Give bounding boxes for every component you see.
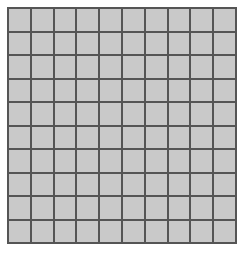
grid-cell xyxy=(9,127,30,149)
grid-cell xyxy=(191,197,212,219)
grid-cell xyxy=(191,103,212,125)
grid-cell xyxy=(77,33,98,55)
grid-cell xyxy=(123,80,144,102)
grid-cell xyxy=(55,150,76,172)
figure-canvas xyxy=(0,0,244,256)
grid-cell xyxy=(191,80,212,102)
grid-cell xyxy=(32,9,53,31)
grid-cell xyxy=(32,127,53,149)
grid-cell xyxy=(123,221,144,243)
grid-cell xyxy=(123,174,144,196)
grid-cell xyxy=(214,174,235,196)
grid-cell xyxy=(77,9,98,31)
grid-cell xyxy=(32,197,53,219)
grid-cell xyxy=(169,197,190,219)
grid-cell xyxy=(77,56,98,78)
grid-cell xyxy=(100,150,121,172)
grid-cell xyxy=(77,80,98,102)
grid-cell xyxy=(77,103,98,125)
grid-cell xyxy=(100,80,121,102)
grid-cell xyxy=(55,56,76,78)
grid-cell xyxy=(55,197,76,219)
grid-cell xyxy=(146,197,167,219)
grid-cell xyxy=(191,127,212,149)
grid-cell xyxy=(146,80,167,102)
grid-cell xyxy=(214,127,235,149)
grid-cell xyxy=(123,150,144,172)
grid-cell xyxy=(9,103,30,125)
grid-cell xyxy=(32,33,53,55)
grid-cell xyxy=(55,127,76,149)
grid-cell xyxy=(123,33,144,55)
grid-cell xyxy=(214,150,235,172)
grid-cell xyxy=(55,221,76,243)
grid-cell xyxy=(123,103,144,125)
grid-cell xyxy=(55,80,76,102)
grid-cell xyxy=(169,127,190,149)
grid-cell xyxy=(9,56,30,78)
grid-cell xyxy=(214,221,235,243)
grid-cell xyxy=(55,9,76,31)
grid-cell xyxy=(191,33,212,55)
grid-cell xyxy=(146,174,167,196)
grid-cell xyxy=(55,33,76,55)
grid-cell xyxy=(32,103,53,125)
grid-cell xyxy=(9,80,30,102)
grid-cell xyxy=(191,9,212,31)
grid-cell xyxy=(146,33,167,55)
grid-cell xyxy=(169,56,190,78)
grid-cell xyxy=(32,150,53,172)
grid-cell xyxy=(146,150,167,172)
grid-cell xyxy=(32,174,53,196)
grid-cell xyxy=(77,197,98,219)
grid-cell xyxy=(123,127,144,149)
grid-cell xyxy=(100,33,121,55)
grid-cell xyxy=(169,9,190,31)
grid-cell xyxy=(9,9,30,31)
grid-cell xyxy=(77,221,98,243)
grid-cell xyxy=(9,174,30,196)
grid-cell xyxy=(169,80,190,102)
grid-cell xyxy=(191,221,212,243)
grid-cell xyxy=(146,127,167,149)
grid-cell xyxy=(100,9,121,31)
grid-cell xyxy=(32,56,53,78)
grid-cell xyxy=(191,56,212,78)
grid-cell xyxy=(169,150,190,172)
grid-cell xyxy=(9,150,30,172)
grid-cell xyxy=(55,174,76,196)
grid-cell xyxy=(77,174,98,196)
grid-cell xyxy=(169,221,190,243)
grid-cell xyxy=(100,174,121,196)
grid-cell xyxy=(214,103,235,125)
grid-cell xyxy=(9,33,30,55)
grid-cell xyxy=(9,197,30,219)
grid-cell xyxy=(55,103,76,125)
grid-cell xyxy=(169,103,190,125)
grid-cell xyxy=(214,56,235,78)
grid-cell xyxy=(100,127,121,149)
grid-cell xyxy=(123,9,144,31)
grid-cell xyxy=(146,9,167,31)
grid-cell xyxy=(100,56,121,78)
grid-cell xyxy=(146,56,167,78)
grid-cell xyxy=(100,221,121,243)
grid-cell xyxy=(123,197,144,219)
grid-cell xyxy=(77,127,98,149)
grid-cell xyxy=(32,221,53,243)
grid-cell xyxy=(100,197,121,219)
grid-cell xyxy=(100,103,121,125)
grid-cell xyxy=(32,80,53,102)
grid-cell xyxy=(77,150,98,172)
grid-cell xyxy=(146,221,167,243)
grid-cell xyxy=(9,221,30,243)
grid-cell xyxy=(214,197,235,219)
grid-cell xyxy=(214,33,235,55)
grid-cell xyxy=(169,33,190,55)
grid-cell xyxy=(123,56,144,78)
square-grid xyxy=(7,7,237,244)
grid-cell xyxy=(214,9,235,31)
grid-cell xyxy=(191,174,212,196)
grid-cell xyxy=(214,80,235,102)
grid-cell xyxy=(146,103,167,125)
